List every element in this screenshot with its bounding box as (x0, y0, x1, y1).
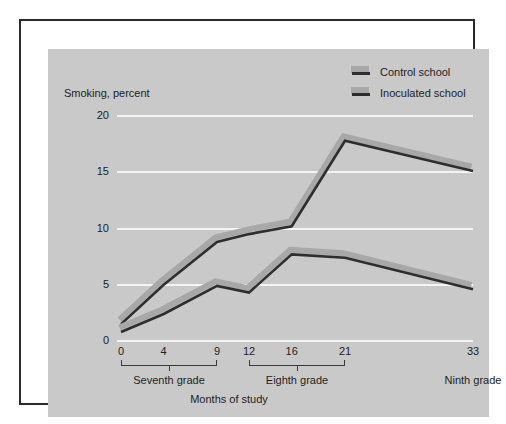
figure-frame: Smoking, percentControl schoolInoculated… (19, 19, 475, 405)
chart-canvas (48, 49, 489, 417)
